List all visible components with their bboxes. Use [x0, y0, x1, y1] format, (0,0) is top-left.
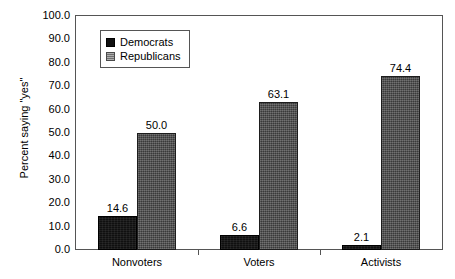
legend-swatch-republicans-icon — [106, 52, 115, 61]
bar-value-label: 6.6 — [232, 221, 247, 233]
bar-value-label: 2.1 — [354, 231, 369, 243]
bar-chart: Percent saying "yes" 0.010.020.030.040.0… — [0, 0, 455, 279]
x-tick-mark — [320, 250, 321, 255]
chart-legend: Democrats Republicans — [100, 30, 190, 68]
legend-item-democrats: Democrats — [106, 35, 181, 49]
x-axis-label-activists: Activists — [361, 256, 401, 268]
legend-item-republicans: Republicans — [106, 49, 181, 63]
bar-activists-democrats: 2.1 — [342, 245, 381, 250]
bar-value-label: 14.6 — [107, 202, 128, 214]
y-tick-label: 100.0 — [26, 9, 70, 21]
bar-value-label: 74.4 — [390, 62, 411, 74]
bar-nonvoters-republicans: 50.0 — [137, 133, 176, 250]
x-axis-label-nonvoters: Nonvoters — [112, 256, 162, 268]
bar-nonvoters-democrats: 14.6 — [98, 216, 137, 250]
y-tick-label: 50.0 — [26, 126, 70, 138]
legend-swatch-democrats-icon — [106, 38, 115, 47]
y-tick-label: 80.0 — [26, 56, 70, 68]
y-tick-label: 10.0 — [26, 220, 70, 232]
y-tick-label: 30.0 — [26, 173, 70, 185]
y-tick-label: 70.0 — [26, 79, 70, 91]
y-tick-label: 40.0 — [26, 149, 70, 161]
bar-value-label: 63.1 — [268, 88, 289, 100]
y-tick-label: 60.0 — [26, 103, 70, 115]
bar-voters-republicans: 63.1 — [259, 102, 298, 250]
bar-activists-republicans: 74.4 — [381, 76, 420, 250]
x-tick-mark — [198, 250, 199, 255]
legend-label-democrats: Democrats — [120, 36, 173, 48]
y-axis-ticks: 0.010.020.030.040.050.060.070.080.090.01… — [26, 15, 70, 250]
bar-voters-democrats: 6.6 — [220, 235, 259, 250]
bar-value-label: 50.0 — [146, 119, 167, 131]
y-tick-label: 0.0 — [26, 243, 70, 255]
legend-label-republicans: Republicans — [120, 50, 181, 62]
y-tick-label: 90.0 — [26, 32, 70, 44]
y-tick-label: 20.0 — [26, 196, 70, 208]
x-axis-label-voters: Voters — [243, 256, 274, 268]
